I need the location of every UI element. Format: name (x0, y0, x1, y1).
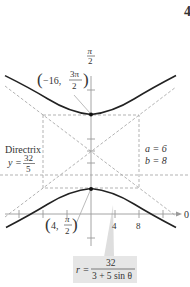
svg-text:2: 2 (65, 226, 70, 236)
hyperbola-polar-diagram: 4 0 4 8 π 2 ( −16 (0, 0, 190, 287)
polar-axis-label: 0 (184, 209, 189, 220)
svg-text:): ) (83, 70, 89, 89)
hyperbola-upper-branch (5, 76, 176, 115)
vertical-axis-label-numerator: π (88, 46, 93, 56)
svg-text:y =: y = (7, 157, 22, 168)
vertical-axis-label-denominator: 2 (88, 56, 93, 66)
param-b-label: b = 8 (145, 155, 167, 166)
svg-text:5: 5 (26, 164, 31, 174)
upper-vertex-leader (74, 95, 90, 113)
equation-callout-pointer (104, 205, 114, 257)
lower-vertex-label: ( 4, π 2 ) (45, 214, 78, 236)
x-tick-label-4: 4 (112, 221, 117, 231)
lower-vertex-point (89, 187, 93, 191)
svg-text:3π: 3π (70, 69, 80, 79)
svg-text:2: 2 (72, 81, 77, 91)
directrix-label: Directrix y = 32 5 (5, 144, 41, 174)
svg-text:32: 32 (24, 153, 33, 163)
svg-text:4,: 4, (51, 220, 59, 231)
svg-text:32: 32 (106, 258, 116, 268)
x-tick-label-8: 8 (136, 221, 141, 231)
svg-text:3 + 5 sin θ: 3 + 5 sin θ (92, 271, 132, 281)
svg-text:−16,: −16, (43, 75, 61, 86)
polar-axis-arrow-icon (176, 212, 182, 217)
upper-vertex-label: ( −16, 3π 2 ) (37, 69, 89, 91)
svg-text:): ) (72, 215, 78, 234)
param-a-label: a = 6 (145, 143, 167, 154)
lower-vertex-leader (76, 191, 90, 224)
svg-text:π: π (65, 214, 70, 224)
corner-mark: 4 (184, 4, 190, 19)
svg-text:r =: r = (76, 264, 89, 275)
